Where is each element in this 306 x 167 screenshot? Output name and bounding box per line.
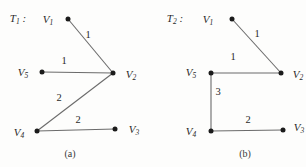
vertex-label-v5: V5: [186, 66, 196, 78]
vertex-label-subscript: 2: [132, 73, 136, 82]
vertex-dot-v3: [281, 128, 286, 133]
vertex-dot-v2: [111, 71, 116, 76]
vertex-dot-v1: [230, 17, 235, 22]
vertex-dot-v2: [279, 71, 284, 76]
vertex-dot-v5: [209, 71, 214, 76]
vertex-label-base: V: [18, 66, 25, 78]
edge-weight-v1-v2: 1: [254, 28, 259, 39]
vertex-label-subscript: 1: [49, 18, 53, 27]
edge-V5-V2: [42, 72, 113, 73]
vertex-label-v5: V5: [18, 66, 28, 78]
vertex-label-base: V: [43, 13, 50, 25]
vertex-label-base: V: [126, 68, 133, 80]
edge-V4-V3: [211, 130, 283, 131]
vertex-label-base: V: [294, 121, 301, 133]
edge-weight-v4-v3: 2: [75, 114, 80, 125]
panel-b: T2 :V1V2V3V4V51132(b): [153, 0, 306, 167]
graph-title-a: T1 :: [10, 12, 26, 24]
vertex-label-v3: V3: [294, 121, 304, 133]
vertex-label-subscript: 4: [192, 130, 196, 139]
vertex-label-v1: V1: [43, 13, 53, 25]
vertex-dot-v4: [209, 129, 214, 134]
vertex-label-base: V: [186, 125, 193, 137]
vertex-dot-v5: [40, 70, 45, 75]
vertex-dot-v4: [35, 129, 40, 134]
graph-title-subscript: 2: [173, 17, 177, 26]
vertex-label-base: V: [293, 68, 300, 80]
vertex-label-v3: V3: [129, 123, 139, 135]
edge-V1-V2: [68, 19, 113, 73]
vertex-label-subscript: 3: [300, 126, 304, 135]
vertex-label-subscript: 5: [192, 71, 196, 80]
vertex-label-v2: V2: [293, 68, 303, 80]
vertex-label-v2: V2: [126, 68, 136, 80]
vertex-dot-v1: [66, 17, 71, 22]
panel-caption-a: (a): [64, 148, 75, 159]
graph-title-suffix: :: [20, 12, 26, 24]
vertex-label-subscript: 3: [135, 128, 139, 137]
vertex-label-subscript: 2: [299, 73, 303, 82]
vertex-label-v1: V1: [203, 13, 213, 25]
vertex-label-subscript: 1: [209, 18, 213, 27]
edge-weight-v4-v3: 2: [245, 114, 250, 125]
graph-title-b: T2 :: [167, 12, 183, 24]
vertex-label-base: V: [129, 123, 136, 135]
vertex-label-base: V: [186, 66, 193, 78]
edge-weight-v4-v2: 2: [56, 92, 61, 103]
vertex-label-base: V: [14, 126, 21, 138]
edge-weight-v5-v2: 1: [61, 55, 66, 66]
vertex-label-v4: V4: [186, 125, 196, 137]
panel-caption-b: (b): [239, 148, 251, 159]
graph-title-subscript: 1: [16, 17, 20, 26]
edge-weight-v5-v4: 3: [215, 86, 220, 97]
edge-weight-v5-v2: 1: [230, 51, 235, 62]
edge-weight-v1-v2: 1: [85, 29, 90, 40]
edge-layer: [0, 0, 153, 167]
weighted-graph-figure: T1 :V1V2V3V4V51122(a) T2 :V1V2V3V4V51132…: [0, 0, 306, 167]
vertex-dot-v3: [113, 127, 118, 132]
vertex-label-base: V: [203, 13, 210, 25]
vertex-label-subscript: 4: [20, 131, 24, 140]
graph-title-suffix: :: [177, 12, 183, 24]
panel-a: T1 :V1V2V3V4V51122(a): [0, 0, 153, 167]
vertex-label-subscript: 5: [24, 71, 28, 80]
edge-V4-V3: [37, 129, 115, 131]
vertex-label-v4: V4: [14, 126, 24, 138]
